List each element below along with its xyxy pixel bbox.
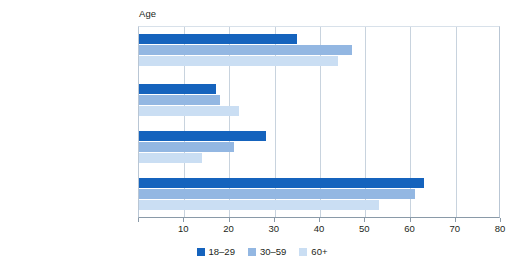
bar-3-0[interactable] — [139, 178, 424, 188]
bar-1-0[interactable] — [139, 84, 216, 94]
x-tick-label-30: 30 — [268, 223, 279, 234]
x-tick-mark-0 — [138, 218, 139, 222]
x-tick-mark-80 — [500, 218, 501, 222]
bar-0-0[interactable] — [139, 34, 297, 44]
bar-3-2[interactable] — [139, 200, 379, 210]
x-tick-label-40: 40 — [314, 223, 325, 234]
legend-title-age: Age — [139, 8, 156, 19]
x-tick-label-20: 20 — [223, 223, 234, 234]
bar-0-1[interactable] — [139, 45, 352, 55]
bar-1-1[interactable] — [139, 95, 220, 105]
x-tick-mark-20 — [229, 218, 230, 222]
x-tick-mark-70 — [455, 218, 456, 222]
x-tick-mark-50 — [364, 218, 365, 222]
bar-2-1[interactable] — [139, 142, 234, 152]
legend-item-0[interactable]: 18–29 — [197, 246, 235, 257]
bar-2-0[interactable] — [139, 131, 266, 141]
bar-0-2[interactable] — [139, 56, 338, 66]
legend-label-0: 18–29 — [209, 246, 235, 257]
x-tick-label-10: 10 — [178, 223, 189, 234]
x-tick-mark-10 — [183, 218, 184, 222]
x-tick-label-80: 80 — [495, 223, 506, 234]
x-tick-label-60: 60 — [404, 223, 415, 234]
legend-label-2: 60+ — [311, 246, 327, 257]
bar-2-2[interactable] — [139, 153, 202, 163]
x-tick-label-70: 70 — [449, 223, 460, 234]
x-tick-mark-60 — [410, 218, 411, 222]
x-tick-label-50: 50 — [359, 223, 370, 234]
legend-item-2[interactable]: 60+ — [299, 246, 327, 257]
legend-swatch-icon-1 — [248, 248, 256, 256]
legend-swatch-icon-2 — [299, 248, 307, 256]
plot-area — [138, 26, 500, 218]
chart-legend: 18–29 30–59 60+ — [0, 246, 524, 257]
legend-swatch-icon-0 — [197, 248, 205, 256]
legend-item-1[interactable]: 30–59 — [248, 246, 286, 257]
gridline-70 — [456, 27, 457, 217]
bar-1-2[interactable] — [139, 106, 239, 116]
x-axis: 1020304050607080 — [138, 218, 500, 238]
bar-3-1[interactable] — [139, 189, 415, 199]
legend-label-1: 30–59 — [260, 246, 286, 257]
horizontal-bar-chart: Age Dis — [0, 0, 524, 274]
x-tick-mark-30 — [274, 218, 275, 222]
x-tick-mark-40 — [319, 218, 320, 222]
